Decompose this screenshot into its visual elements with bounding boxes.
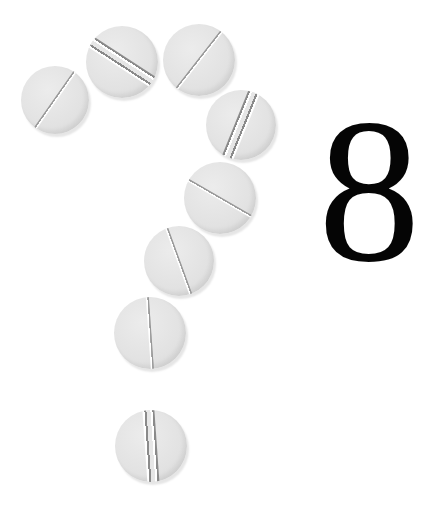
pill-score-line: [221, 90, 260, 160]
pill-tablet: [115, 410, 187, 482]
pill-tablet: [163, 24, 235, 96]
pill-score-line: [165, 226, 194, 296]
large-number-eight: 8: [318, 88, 421, 293]
pill-score-line: [86, 36, 158, 88]
pill-score-line: [146, 297, 154, 369]
pill-score-line: [174, 28, 224, 91]
pill-tablet: [184, 162, 256, 234]
pill-score-line: [186, 177, 255, 218]
pill-score-line: [33, 69, 78, 131]
pill-tablet: [144, 226, 214, 296]
pill-tablet: [206, 90, 276, 160]
pill-tablet: [21, 66, 89, 134]
pill-tablet: [86, 26, 158, 98]
pill-tablet: [114, 297, 186, 369]
pill-score-line: [142, 410, 159, 482]
